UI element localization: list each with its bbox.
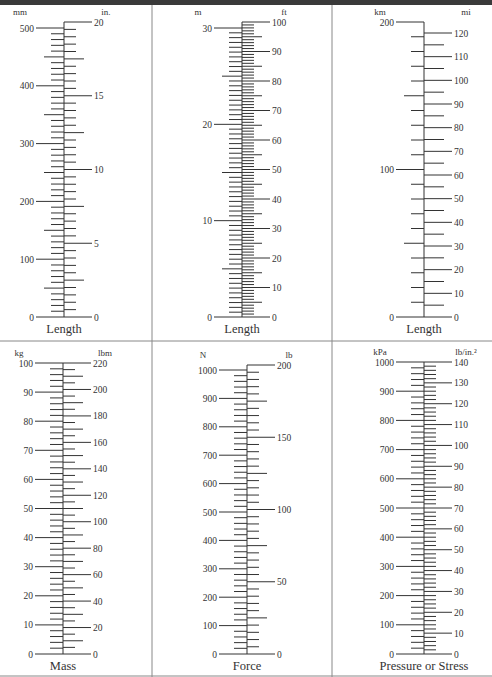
right-tick-label: 100 xyxy=(93,517,108,527)
left-tick-label: 800 xyxy=(380,416,395,426)
scale-title: Mass xyxy=(50,659,77,673)
scale-1: 01020300102030405060708090100mftLength xyxy=(194,7,287,336)
right-tick-label: 50 xyxy=(454,545,464,555)
scale-title: Force xyxy=(233,659,262,673)
scale-2: 01002000102030405060708090100110120kmmiL… xyxy=(374,7,471,336)
left-tick-label: 0 xyxy=(212,650,217,660)
left-unit-label: kg xyxy=(15,348,25,358)
left-tick-label: 400 xyxy=(203,536,218,546)
right-tick-label: 60 xyxy=(454,524,464,534)
scale-title: Length xyxy=(406,322,442,336)
right-tick-label: 10 xyxy=(454,629,464,639)
right-unit-label: ft xyxy=(281,7,287,17)
right-tick-label: 80 xyxy=(93,544,103,554)
left-tick-label: 900 xyxy=(203,394,218,404)
right-tick-label: 50 xyxy=(277,577,287,587)
left-tick-label: 200 xyxy=(380,18,395,28)
left-tick-label: 50 xyxy=(24,504,34,514)
scale-4: 0100200300400500600700800900100005010015… xyxy=(198,350,293,673)
scale-3: 0102030405060708090100020406080100120140… xyxy=(15,348,113,673)
right-tick-label: 0 xyxy=(277,650,282,660)
left-tick-label: 500 xyxy=(203,508,218,518)
panel-dividers xyxy=(0,5,492,677)
left-tick-label: 600 xyxy=(380,474,395,484)
left-tick-label: 0 xyxy=(28,650,33,660)
left-tick-label: 0 xyxy=(207,313,212,323)
right-tick-label: 40 xyxy=(93,597,103,607)
right-tick-label: 0 xyxy=(454,650,459,660)
left-tick-label: 400 xyxy=(380,533,395,543)
left-tick-label: 300 xyxy=(20,139,35,149)
right-tick-label: 40 xyxy=(454,566,464,576)
right-tick-label: 150 xyxy=(277,433,292,443)
right-unit-label: in. xyxy=(101,7,110,17)
right-tick-label: 120 xyxy=(454,399,469,409)
right-tick-label: 0 xyxy=(454,313,459,323)
left-unit-label: mm xyxy=(13,7,27,17)
right-tick-label: 160 xyxy=(93,438,108,448)
right-tick-label: 10 xyxy=(272,283,282,293)
left-unit-label: kPa xyxy=(373,347,387,357)
right-tick-label: 50 xyxy=(272,165,282,175)
right-tick-label: 80 xyxy=(454,123,464,133)
right-tick-label: 20 xyxy=(94,18,104,28)
left-tick-label: 500 xyxy=(20,24,35,34)
left-tick-label: 700 xyxy=(203,451,218,461)
right-tick-label: 30 xyxy=(454,587,464,597)
right-tick-label: 5 xyxy=(94,239,99,249)
right-tick-label: 10 xyxy=(454,289,464,299)
left-tick-label: 200 xyxy=(203,593,218,603)
right-tick-label: 80 xyxy=(454,483,464,493)
left-tick-label: 10 xyxy=(203,216,213,226)
right-tick-label: 100 xyxy=(277,505,292,515)
right-unit-label: mi xyxy=(461,7,471,17)
left-unit-label: km xyxy=(374,7,386,17)
right-tick-label: 0 xyxy=(93,650,98,660)
right-tick-label: 90 xyxy=(272,47,282,57)
left-tick-label: 600 xyxy=(203,479,218,489)
left-tick-label: 900 xyxy=(380,387,395,397)
scale-title: Pressure or Stress xyxy=(380,659,469,673)
right-unit-label: lb xyxy=(285,350,293,360)
right-tick-label: 60 xyxy=(454,171,464,181)
left-tick-label: 100 xyxy=(203,621,218,631)
right-tick-label: 40 xyxy=(272,195,282,205)
right-tick-label: 70 xyxy=(454,504,464,514)
scale-5: 0100200300400500600700800900100001020304… xyxy=(373,347,477,673)
scale-title: Length xyxy=(224,322,260,336)
left-tick-label: 1000 xyxy=(375,358,394,368)
right-tick-label: 70 xyxy=(454,147,464,157)
right-tick-label: 20 xyxy=(454,265,464,275)
left-tick-label: 500 xyxy=(380,504,395,514)
right-tick-label: 20 xyxy=(454,608,464,618)
right-tick-label: 120 xyxy=(454,29,469,39)
left-tick-label: 400 xyxy=(20,81,35,91)
right-tick-label: 80 xyxy=(272,77,282,87)
right-tick-label: 70 xyxy=(272,106,282,116)
left-tick-label: 1000 xyxy=(198,366,217,376)
conversion-scales-chart: 010020030040050005101520mmin.Length01020… xyxy=(0,0,492,677)
left-unit-label: N xyxy=(200,350,207,360)
left-tick-label: 100 xyxy=(380,620,395,630)
left-tick-label: 0 xyxy=(389,313,394,323)
right-tick-label: 200 xyxy=(93,385,108,395)
left-tick-label: 100 xyxy=(380,165,395,175)
right-tick-label: 90 xyxy=(454,462,464,472)
right-tick-label: 120 xyxy=(93,491,108,501)
right-tick-label: 50 xyxy=(454,194,464,204)
right-tick-label: 20 xyxy=(93,623,103,633)
right-tick-label: 20 xyxy=(272,254,282,264)
right-tick-label: 200 xyxy=(277,361,292,371)
left-tick-label: 100 xyxy=(19,359,34,369)
right-tick-label: 0 xyxy=(272,313,277,323)
right-tick-label: 220 xyxy=(93,359,108,369)
right-tick-label: 60 xyxy=(272,136,282,146)
left-tick-label: 30 xyxy=(24,562,34,572)
right-tick-label: 100 xyxy=(272,18,287,28)
right-tick-label: 60 xyxy=(93,570,103,580)
right-tick-label: 140 xyxy=(454,358,469,368)
left-tick-label: 100 xyxy=(20,255,35,265)
left-tick-label: 300 xyxy=(380,562,395,572)
right-tick-label: 140 xyxy=(93,464,108,474)
right-tick-label: 0 xyxy=(94,313,99,323)
